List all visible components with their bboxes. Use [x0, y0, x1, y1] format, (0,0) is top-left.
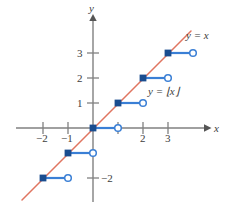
closed-point-2-2 — [140, 75, 147, 82]
step-segments-group — [43, 53, 193, 178]
y-tick-label-2: 2 — [77, 73, 83, 84]
y-tick-label-1: 1 — [77, 98, 83, 109]
x-tick-label-2: 2 — [140, 133, 146, 144]
y-axis-arrowhead — [89, 14, 96, 21]
open-point--1--2 — [65, 175, 72, 182]
y-tick-label--2: −2 — [101, 173, 113, 184]
x-tick-label-3: 3 — [165, 133, 171, 144]
closed-point-0-0 — [90, 125, 97, 132]
open-point-4-3 — [190, 50, 197, 57]
x-tick-label--2: −2 — [36, 133, 48, 144]
x-axis-arrowhead — [204, 124, 212, 131]
x-axis-label: x — [214, 123, 219, 134]
open-point-1-0 — [115, 125, 122, 132]
closed-point-1-1 — [115, 100, 122, 107]
open-endpoints-group — [65, 50, 197, 182]
closed-point--1--1 — [65, 150, 72, 157]
equation-label-y-equals-x: y = x — [186, 30, 209, 41]
closed-point-3-3 — [165, 50, 172, 57]
closed-point--2--2 — [40, 175, 47, 182]
floor-function-figure: x y −2 −1 2 3 1 2 3 −2 y = x y = ⌊x⌋ — [0, 0, 232, 208]
y-tick-label-3: 3 — [77, 48, 83, 59]
y-axis-label: y — [89, 3, 94, 14]
equation-label-floor: y = ⌊x⌋ — [148, 86, 179, 97]
open-point-0--1 — [90, 150, 97, 157]
open-point-2-1 — [140, 100, 147, 107]
open-point-3-2 — [165, 75, 172, 82]
x-tick-label--1: −1 — [61, 133, 73, 144]
